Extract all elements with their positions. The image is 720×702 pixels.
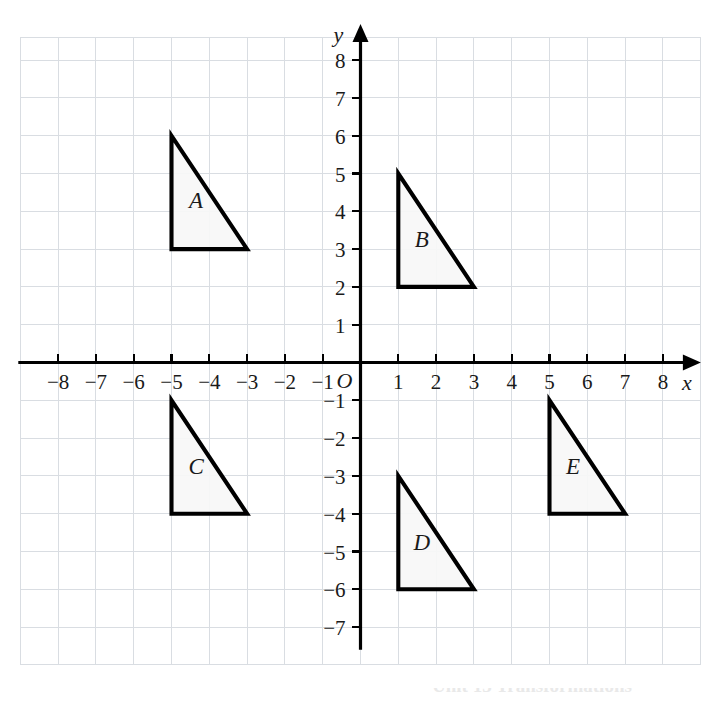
axis-labels-layer: −8−7−6−5−4−3−2−11234567887654321−1−2−3−4… — [47, 22, 692, 640]
x-axis-tick-label: −7 — [85, 370, 107, 394]
x-axis-name-label: x — [681, 370, 692, 395]
x-axis-tick-label: −2 — [274, 370, 296, 394]
y-axis-tick-label: 7 — [335, 87, 346, 111]
x-axis-arrowhead-icon — [683, 355, 701, 371]
x-axis-tick-label: 2 — [431, 370, 442, 394]
triangle-label-b: B — [415, 227, 429, 252]
y-axis-tick-label: −3 — [323, 465, 345, 489]
triangle-label-e: E — [565, 454, 580, 479]
triangle-label-a: A — [187, 188, 204, 213]
y-axis-tick-label: −6 — [323, 578, 345, 602]
caption-text: Unit 13 Transformations — [432, 688, 632, 697]
coordinate-plane-figure: ABCDE −8−7−6−5−4−3−2−11234567887654321−1… — [0, 0, 720, 702]
y-axis-tick-label: 4 — [335, 200, 346, 224]
y-axis-arrowhead-icon — [353, 24, 369, 42]
y-axis-tick-label: −5 — [323, 541, 345, 565]
x-axis-tick-label: 1 — [393, 370, 404, 394]
coordinate-plane-svg: ABCDE −8−7−6−5−4−3−2−11234567887654321−1… — [0, 0, 720, 702]
y-axis-tick-label: 6 — [335, 125, 346, 149]
y-axis-tick-label: −7 — [323, 616, 345, 640]
triangle-label-c: C — [188, 454, 204, 479]
x-axis-tick-label: −8 — [47, 370, 69, 394]
y-axis-tick-label: 5 — [335, 163, 346, 187]
triangle-label-d: D — [412, 530, 430, 555]
x-axis-tick-label: 7 — [620, 370, 631, 394]
y-axis-tick-label: −1 — [323, 389, 345, 413]
y-axis-name-label: y — [332, 22, 344, 47]
caption-strip: Unit 13 Transformations — [0, 688, 720, 702]
origin-label: O — [337, 368, 353, 393]
y-axis-tick-label: −2 — [323, 427, 345, 451]
y-axis-tick-label: 8 — [335, 49, 346, 73]
x-axis-tick-label: 5 — [544, 370, 555, 394]
x-axis-tick-label: 3 — [469, 370, 480, 394]
y-axis-tick-label: −4 — [323, 503, 346, 527]
x-axis-tick-label: −5 — [160, 370, 182, 394]
x-axis-tick-label: −6 — [123, 370, 145, 394]
x-axis-tick-label: −3 — [236, 370, 258, 394]
x-axis-tick-label: −4 — [198, 370, 221, 394]
y-axis-tick-label: 2 — [335, 276, 346, 300]
axes-layer — [18, 24, 701, 650]
x-axis-tick-label: 8 — [658, 370, 669, 394]
x-axis-tick-label: 6 — [582, 370, 593, 394]
y-axis-tick-label: 1 — [335, 314, 346, 338]
x-axis-tick-label: 4 — [506, 370, 517, 394]
y-axis-tick-label: 3 — [335, 238, 346, 262]
